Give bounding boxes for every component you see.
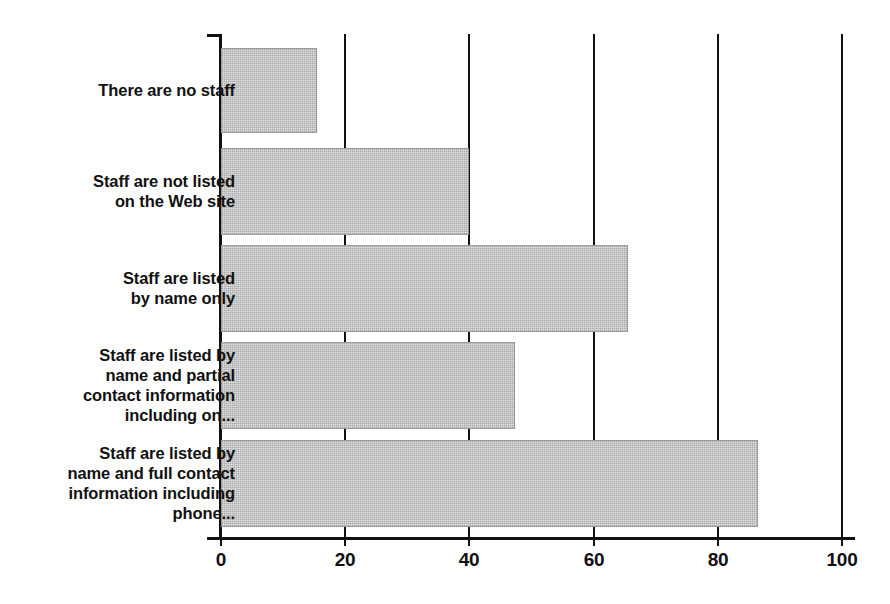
bar-2 (221, 245, 628, 332)
category-label-1: Staff are not listed on the Web site (15, 171, 235, 211)
gridline-100 (841, 34, 843, 539)
bar-0 (221, 48, 317, 133)
x-tick-label-100: 100 (812, 549, 872, 571)
x-tick-label-60: 60 (564, 549, 624, 571)
bar-1 (221, 148, 469, 235)
x-tick-label-80: 80 (688, 549, 748, 571)
bar-4 (221, 440, 758, 527)
category-label-3: Staff are listed by name and partial con… (15, 345, 235, 425)
x-tick-40 (468, 531, 470, 546)
x-tick-label-0: 0 (191, 549, 251, 571)
bar-chart: 0 20 40 60 80 100 There are no staff Sta… (0, 0, 890, 604)
category-label-4: Staff are listed by name and full contac… (15, 443, 235, 523)
category-label-0: There are no staff (15, 80, 235, 100)
x-tick-60 (593, 531, 595, 546)
x-tick-100 (841, 531, 843, 546)
plot-area: 0 20 40 60 80 100 There are no staff Sta… (0, 0, 890, 604)
y-axis-top-cap (207, 34, 222, 37)
x-tick-20 (344, 531, 346, 546)
x-tick-0 (220, 531, 222, 546)
category-label-2: Staff are listed by name only (15, 268, 235, 308)
bar-3 (221, 342, 515, 429)
x-tick-80 (717, 531, 719, 546)
x-tick-label-40: 40 (439, 549, 499, 571)
x-axis-spine (207, 537, 855, 540)
x-tick-label-20: 20 (315, 549, 375, 571)
